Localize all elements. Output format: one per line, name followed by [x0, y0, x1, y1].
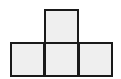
square-bottom-right	[78, 42, 113, 77]
square-bottom-left	[10, 42, 45, 77]
square-bottom-center	[44, 42, 79, 77]
square-top-center	[44, 9, 79, 44]
